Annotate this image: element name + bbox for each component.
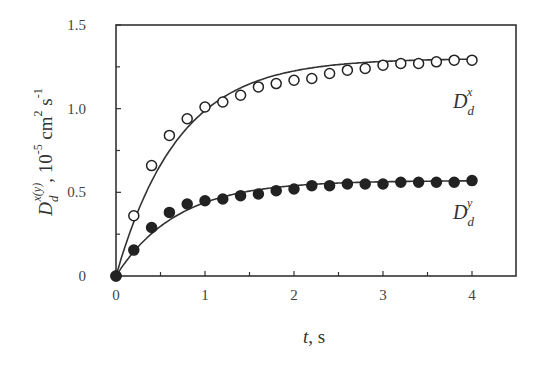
open-circle-marker	[253, 82, 263, 92]
open-circle-marker	[236, 90, 246, 100]
open-circle-marker	[307, 74, 317, 84]
fit-curve-1	[116, 181, 472, 276]
x-tick-label: 4	[468, 287, 476, 303]
filled-circle-marker	[396, 177, 406, 187]
open-circle-marker	[289, 75, 299, 85]
series-label-dx: Ddx	[452, 85, 474, 118]
open-circle-marker	[342, 65, 352, 75]
open-circle-marker	[325, 69, 335, 79]
filled-circle-marker	[129, 245, 139, 255]
filled-circle-marker	[378, 179, 388, 189]
x-tick-label: 2	[290, 287, 298, 303]
filled-circle-marker	[236, 191, 246, 201]
x-tick-label: 0	[112, 287, 120, 303]
x-tick-label: 1	[201, 287, 209, 303]
open-circle-marker	[271, 79, 281, 89]
filled-circle-marker	[414, 177, 424, 187]
open-circle-marker	[360, 64, 370, 74]
filled-circle-marker	[431, 177, 441, 187]
y-tick-label: 0.5	[67, 184, 86, 200]
filled-circle-marker	[271, 186, 281, 196]
filled-circle-marker	[467, 176, 477, 186]
filled-circle-marker	[360, 179, 370, 189]
filled-circle-marker	[182, 199, 192, 209]
open-circle-marker	[414, 58, 424, 68]
filled-circle-marker	[218, 194, 228, 204]
y-tick-label: 1.5	[67, 17, 86, 33]
filled-circle-marker	[325, 181, 335, 191]
y-tick-label: 0	[79, 268, 87, 284]
open-circle-marker	[200, 102, 210, 112]
open-circle-marker	[129, 211, 139, 221]
filled-circle-marker	[200, 196, 210, 206]
filled-circle-marker	[253, 189, 263, 199]
filled-circle-marker	[147, 222, 157, 232]
filled-circle-marker	[449, 177, 459, 187]
open-circle-marker	[396, 58, 406, 68]
x-tick-label: 3	[379, 287, 387, 303]
filled-circle-marker	[342, 179, 352, 189]
open-circle-marker	[467, 55, 477, 65]
open-circle-marker	[218, 97, 228, 107]
filled-circle-marker	[164, 207, 174, 217]
filled-circle-marker	[289, 184, 299, 194]
filled-circle-marker	[111, 271, 121, 281]
open-circle-marker	[378, 60, 388, 70]
filled-circle-marker	[307, 181, 317, 191]
x-axis-title: t, s	[303, 326, 325, 347]
data-markers	[111, 55, 477, 281]
fit-curve-0	[116, 59, 472, 276]
y-tick-label: 1.0	[67, 101, 86, 117]
open-circle-marker	[182, 114, 192, 124]
open-circle-marker	[449, 55, 459, 65]
open-circle-marker	[431, 57, 441, 67]
series-label-dy: Ddy	[452, 196, 474, 229]
open-circle-marker	[164, 130, 174, 140]
open-circle-marker	[147, 161, 157, 171]
fit-curves	[116, 59, 472, 276]
chart-canvas: 0123400.51.01.5 Ddx Ddy t, s Ddx(y), 10-…	[0, 0, 547, 365]
y-axis-title: Ddx(y), 10-5 cm2 s-1	[30, 88, 61, 217]
